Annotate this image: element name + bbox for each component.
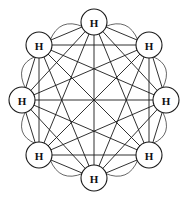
graph-edge [50,105,155,150]
graph-node-bottom[interactable]: H [81,165,107,191]
node-label: H [90,173,99,185]
graph-node-lower-right[interactable]: H [136,142,162,168]
node-label: H [18,95,27,107]
graph-edge [105,160,138,174]
graph-node-left[interactable]: H [9,87,35,113]
node-label: H [35,150,44,162]
outer-arc [21,111,35,143]
graph-edge [105,27,138,41]
outer-arc [153,56,167,88]
node-label: H [145,40,154,52]
graph-node-upper-right[interactable]: H [136,32,162,58]
graph-edge [50,160,83,174]
node-label: H [162,95,171,107]
graph-node-top[interactable]: H [81,9,107,35]
graph-node-upper-left[interactable]: H [26,32,52,58]
graph-edge [33,105,138,150]
graph-diagram: HHHHHHHH [0,0,183,197]
graph-node-lower-left[interactable]: H [26,142,52,168]
node-label: H [145,150,154,162]
node-label: H [90,17,99,29]
graph-edge [33,50,138,95]
node-label: H [35,40,44,52]
outer-arc [21,56,35,88]
outer-arc [153,111,167,143]
graph-edge [50,27,83,41]
graph-edge [50,50,155,95]
graph-node-right[interactable]: H [153,87,179,113]
graph-canvas: HHHHHHHH [0,0,183,197]
